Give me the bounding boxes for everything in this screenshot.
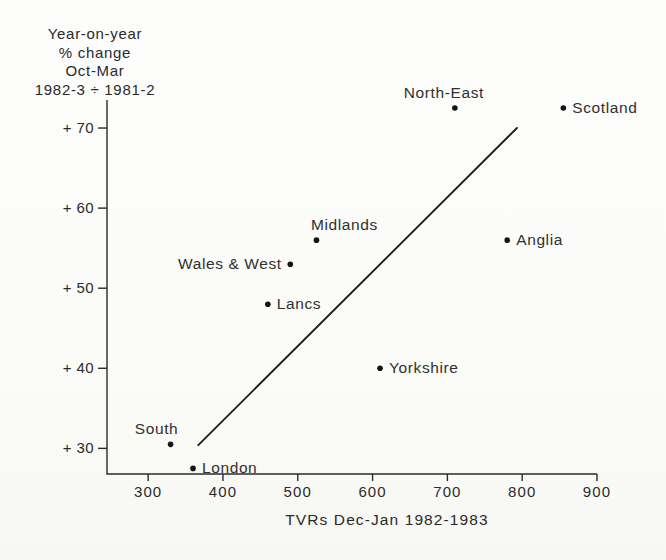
scatter-plot-area: + 30+ 40+ 50+ 60+ 7030040050060070080090… (0, 0, 666, 560)
point-label-south: South (135, 420, 179, 437)
y-tick-label: + 50 (63, 279, 94, 296)
data-point-midlands (314, 237, 320, 243)
point-label-lancs: Lancs (277, 295, 321, 312)
y-tick-label: + 40 (63, 359, 94, 376)
data-point-south (168, 442, 174, 448)
point-label-yorkshire: Yorkshire (389, 359, 458, 376)
point-label-wales-west: Wales & West (178, 255, 282, 272)
y-tick-label: + 60 (63, 199, 94, 216)
x-tick-label: 500 (284, 483, 312, 500)
x-tick-label: 300 (134, 483, 162, 500)
x-tick-label: 800 (508, 483, 536, 500)
data-point-london (190, 466, 196, 472)
x-tick-label: 700 (433, 483, 461, 500)
y-tick-label: + 30 (63, 439, 94, 456)
x-tick-label: 900 (583, 483, 611, 500)
chart-figure: Year-on-year % change Oct-Mar 1982-3 ÷ 1… (0, 0, 666, 560)
point-label-north-east: North-East (404, 84, 484, 101)
data-point-anglia (504, 237, 510, 243)
x-tick-label: 400 (209, 483, 237, 500)
data-point-wales-west (287, 261, 293, 267)
point-label-scotland: Scotland (572, 99, 637, 116)
x-axis-title: TVRs Dec-Jan 1982-1983 (237, 511, 537, 529)
y-tick-label: + 70 (63, 119, 94, 136)
data-point-north-east (452, 105, 458, 111)
data-point-scotland (561, 105, 567, 111)
point-label-anglia: Anglia (516, 231, 563, 248)
data-point-yorkshire (377, 365, 383, 371)
x-tick-label: 600 (358, 483, 386, 500)
trend-line (198, 128, 517, 445)
data-point-lancs (265, 301, 271, 307)
axis-lines (107, 100, 597, 474)
point-label-midlands: Midlands (311, 216, 378, 233)
point-label-london: London (202, 459, 257, 476)
